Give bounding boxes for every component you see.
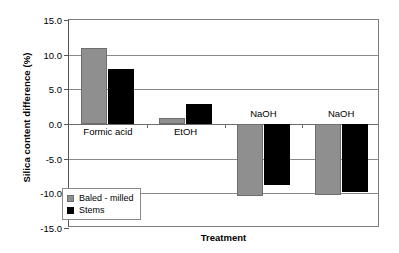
y-axis-title: Silica content difference (%) xyxy=(21,18,32,218)
y-tick-mark xyxy=(64,20,69,21)
category-label: NaOH xyxy=(250,108,276,119)
y-tick-label: 5.0 xyxy=(49,84,62,95)
bar xyxy=(315,124,341,195)
x-tick-mark xyxy=(147,124,148,128)
bar xyxy=(81,48,107,124)
bar xyxy=(186,104,212,124)
x-tick-mark xyxy=(302,124,303,128)
category-label: NaOH xyxy=(328,108,354,119)
legend-item: Stems xyxy=(67,204,134,216)
bar xyxy=(237,124,263,196)
y-tick-mark xyxy=(64,159,69,160)
y-tick-mark xyxy=(64,228,69,229)
gridline xyxy=(69,55,378,56)
y-tick-label: -10.0 xyxy=(40,188,62,199)
legend-label: Baled - milled xyxy=(79,193,134,203)
legend-swatch-icon xyxy=(67,207,74,214)
legend-label: Stems xyxy=(79,205,105,215)
legend-swatch-icon xyxy=(67,195,74,202)
x-axis-title: Treatment xyxy=(68,232,379,243)
y-tick-label: 0.0 xyxy=(49,119,62,130)
category-label: EtOH xyxy=(174,126,197,137)
y-tick-label: -15.0 xyxy=(40,223,62,234)
y-tick-label: -5.0 xyxy=(46,153,62,164)
y-tick-label: 15.0 xyxy=(44,15,63,26)
y-tick-mark xyxy=(64,89,69,90)
y-tick-label: 10.0 xyxy=(44,49,63,60)
x-tick-mark xyxy=(225,124,226,128)
bar xyxy=(159,118,185,124)
legend-item: Baled - milled xyxy=(67,192,134,204)
y-tick-mark xyxy=(64,124,69,125)
bar-chart: Silica content difference (%) 15.010.05.… xyxy=(0,0,399,253)
legend: Baled - milled Stems xyxy=(62,188,141,220)
y-tick-mark xyxy=(64,55,69,56)
bar xyxy=(342,124,368,192)
category-label: Formic acid xyxy=(83,126,132,137)
bar xyxy=(108,69,134,124)
bar xyxy=(264,124,290,185)
